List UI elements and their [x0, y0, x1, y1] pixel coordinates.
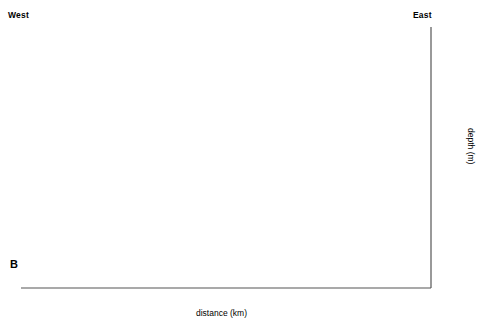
axis-lines	[21, 27, 431, 288]
y-axis-title: depth (m)	[466, 128, 476, 164]
chart-container: West East B distance (km) depth (m)	[0, 0, 486, 325]
x-axis-title: distance (km)	[196, 308, 247, 318]
plot-area	[0, 0, 486, 325]
